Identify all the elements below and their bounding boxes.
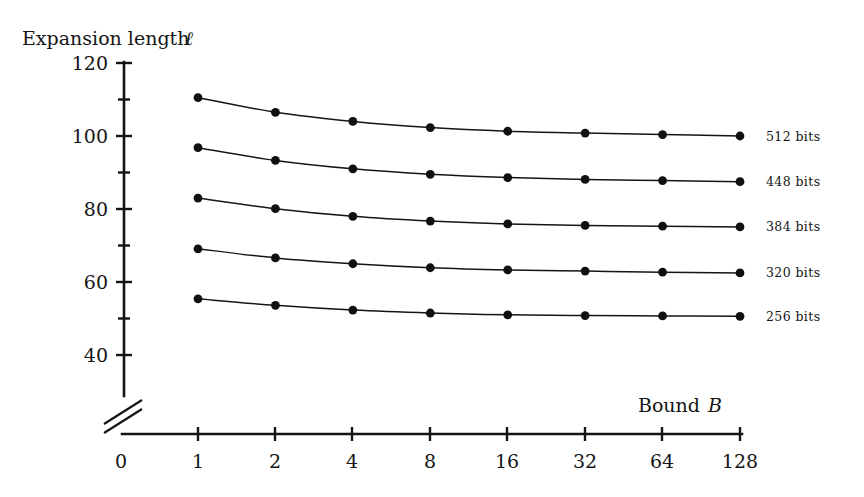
data-point [736, 222, 745, 231]
series-384-bits [194, 194, 745, 232]
series-line [198, 98, 740, 136]
x-tick-label-1: 1 [192, 450, 204, 472]
data-point [658, 268, 667, 277]
data-point [658, 130, 667, 139]
series-line [198, 148, 740, 182]
data-point [581, 175, 590, 184]
legend-label: 512 bits [766, 129, 820, 144]
x-axis-title: Bound B [638, 394, 722, 416]
y-tick-label-40: 40 [84, 344, 108, 366]
data-point [348, 117, 357, 126]
x-tick-label-64: 64 [650, 450, 674, 472]
chart-legend: 512 bits448 bits384 bits320 bits256 bits [766, 129, 820, 324]
legend-entry: 320 bits [766, 265, 820, 280]
x-tick-label-128: 128 [722, 450, 758, 472]
data-point [426, 217, 435, 226]
data-point [348, 259, 357, 268]
legend-entry: 448 bits [766, 174, 820, 189]
y-axis-title-text: Expansion length [22, 27, 189, 49]
data-point [426, 170, 435, 179]
series-line [198, 198, 740, 227]
x-axis-tick-labels: 0 1 2 4 8 16 32 64 128 [115, 450, 758, 472]
data-point [503, 127, 512, 136]
series-320-bits [194, 244, 745, 277]
data-point [658, 176, 667, 185]
data-point [271, 204, 280, 213]
y-axis-title: Expansion length ℓ [22, 27, 193, 49]
data-point [503, 310, 512, 319]
series-line [198, 249, 740, 273]
series-448-bits [194, 143, 745, 186]
data-point [348, 164, 357, 173]
data-point [348, 306, 357, 315]
series-layer [194, 93, 745, 320]
legend-entry: 512 bits [766, 129, 820, 144]
data-point [736, 312, 745, 321]
data-point [736, 268, 745, 277]
data-point [194, 93, 203, 102]
legend-entry: 256 bits [766, 309, 820, 324]
data-point [426, 309, 435, 318]
data-point [194, 194, 203, 203]
y-axis-title-symbol: ℓ [185, 27, 193, 49]
x-axis-title-text: Bound [638, 394, 700, 416]
data-point [503, 220, 512, 229]
data-point [271, 254, 280, 263]
data-point [658, 312, 667, 321]
data-point [581, 129, 590, 138]
x-axis-title-symbol: B [707, 394, 722, 416]
data-point [194, 244, 203, 253]
data-point [581, 311, 590, 320]
legend-label: 320 bits [766, 265, 820, 280]
data-point [736, 177, 745, 186]
data-point [194, 143, 203, 152]
data-point [271, 156, 280, 165]
series-line [198, 299, 740, 317]
data-point [426, 263, 435, 272]
legend-label: 384 bits [766, 219, 820, 234]
x-tick-label-16: 16 [495, 450, 519, 472]
y-tick-label-60: 60 [84, 271, 108, 293]
data-point [194, 294, 203, 303]
data-point [426, 123, 435, 132]
expansion-length-chart: Expansion length ℓ 120 100 80 60 40 [0, 0, 864, 497]
data-point [271, 301, 280, 310]
axis-break-mark [104, 400, 142, 433]
data-point [581, 221, 590, 230]
x-tick-label-0: 0 [115, 450, 127, 472]
y-axis-tick-labels: 120 100 80 60 40 [72, 52, 108, 366]
series-512-bits [194, 93, 745, 140]
x-tick-label-8: 8 [424, 450, 436, 472]
data-point [736, 132, 745, 141]
legend-label: 448 bits [766, 174, 820, 189]
data-point [503, 266, 512, 275]
y-tick-label-120: 120 [72, 52, 108, 74]
data-point [503, 173, 512, 182]
data-point [658, 222, 667, 231]
data-point [271, 108, 280, 117]
x-tick-label-32: 32 [573, 450, 597, 472]
legend-entry: 384 bits [766, 219, 820, 234]
series-256-bits [194, 294, 745, 320]
x-tick-label-2: 2 [269, 450, 281, 472]
x-tick-label-4: 4 [346, 450, 358, 472]
y-tick-label-100: 100 [72, 125, 108, 147]
data-point [581, 267, 590, 276]
y-tick-label-80: 80 [84, 198, 108, 220]
legend-label: 256 bits [766, 309, 820, 324]
chart-canvas: Expansion length ℓ 120 100 80 60 40 [0, 0, 864, 497]
data-point [348, 212, 357, 221]
